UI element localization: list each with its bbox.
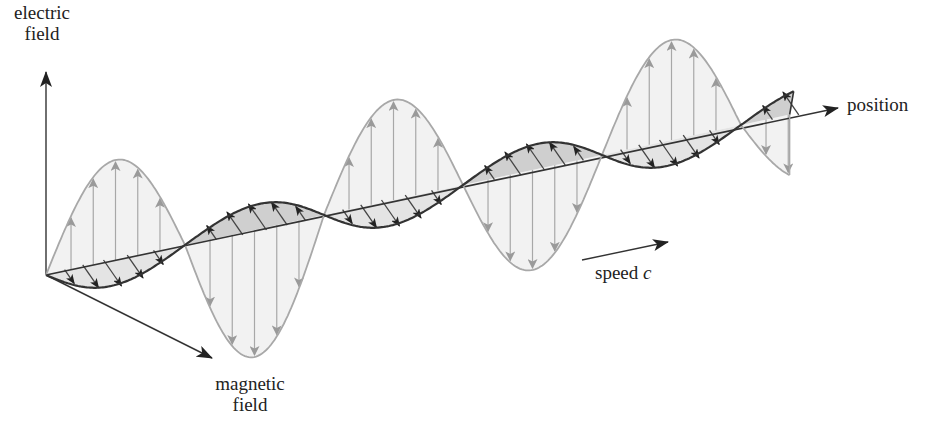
speed-label: speed c bbox=[595, 262, 651, 283]
position-axis-label: position bbox=[847, 94, 908, 115]
speed-arrow bbox=[582, 242, 668, 260]
magnetic-field-axis-label: magnetic field bbox=[205, 373, 295, 415]
electric-field-axis-label: electric field bbox=[2, 2, 82, 44]
speed-of-light-symbol: c bbox=[643, 262, 651, 283]
em-wave-diagram bbox=[0, 0, 938, 433]
